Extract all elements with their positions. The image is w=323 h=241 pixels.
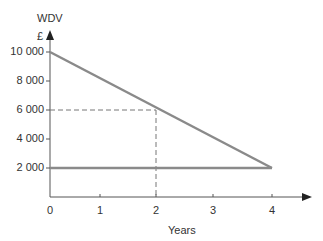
x-tick-label: 4	[262, 204, 282, 216]
y-axis-unit: £	[37, 30, 43, 42]
y-tick-label: 10 000	[0, 45, 44, 57]
x-tick-label: 2	[146, 204, 166, 216]
y-tick-label: 4 000	[0, 132, 44, 144]
x-tick-label: 1	[90, 204, 110, 216]
x-tick-label: 3	[203, 204, 223, 216]
y-tick-label: 2 000	[0, 161, 44, 173]
y-tick-label: 8 000	[0, 74, 44, 86]
y-axis-label: WDV	[37, 12, 63, 24]
y-tick-label: 6 000	[0, 103, 44, 115]
x-tick-label: 0	[40, 204, 60, 216]
x-axis-arrow-icon	[302, 193, 312, 201]
y-axis-arrow-icon	[46, 30, 54, 40]
x-axis-label: Years	[168, 224, 196, 236]
